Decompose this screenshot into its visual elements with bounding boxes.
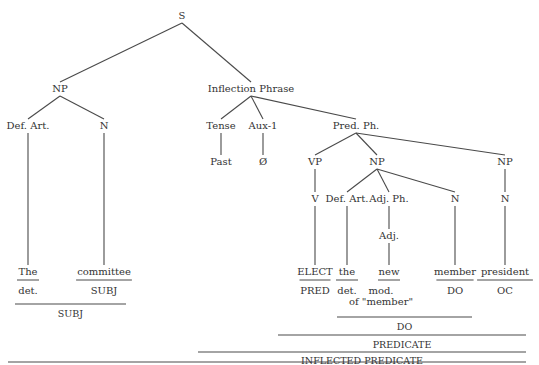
node-n1: N [100,120,109,132]
tree-edge [315,133,356,155]
node-np2: NP [369,156,384,168]
grammatical-role-label: DO [447,285,463,297]
node-tense: Tense [206,120,235,132]
grammatical-role-label: det. [18,285,38,297]
node-ip: Inflection Phrase [208,83,294,95]
tree-edge [60,23,182,82]
grammatical-role-label: OC [497,285,513,297]
tree-edge [356,133,505,155]
node-s: S [179,10,186,22]
node-v: V [311,193,318,205]
leaf-word: new [379,266,400,278]
leaf-word: member [434,266,476,278]
tree-edge [182,23,251,82]
node-n3: N [501,193,510,205]
bracket-label-predicate: PREDICATE [373,339,432,351]
node-np1: NP [52,83,67,95]
bracket-label-subj: SUBJ [58,308,83,320]
leaf-word: ELECT [297,266,333,278]
node-defart2: Def. Art. [326,193,369,205]
tree-edge [377,169,455,192]
tree-edge [251,96,356,119]
node-defart1: Def. Art. [7,120,50,132]
node-np3: NP [497,156,512,168]
tree-edge [347,169,377,192]
node-null: Ø [259,156,267,168]
node-adjph: Adj. Ph. [369,193,408,205]
grammatical-role-label: of "member" [349,296,413,308]
node-n2: N [451,193,460,205]
tree-edge [28,96,60,119]
leaf-word: president [481,266,529,278]
tree-edge [60,96,104,119]
node-adj: Adj. [379,230,399,242]
grammatical-role-label: PRED [300,285,330,297]
node-vp: VP [308,156,322,168]
grammatical-role-label: SUBJ [91,285,118,297]
leaf-word: the [339,266,355,278]
node-aux1: Aux-1 [249,120,278,132]
syntax-tree-diagram: SNPInflection PhraseDef. Art.NTenseAux-1… [0,0,539,365]
node-predph: Pred. Ph. [333,120,380,132]
leaf-word: The [18,266,37,278]
tree-edge [251,96,263,119]
tree-edge [221,96,251,119]
leaf-word: committee [77,266,131,278]
bracket-label-inflected-predicate: INFLECTED PREDICATE [301,355,423,365]
bracket-label-do: DO [397,321,412,333]
tree-edge [356,133,377,155]
node-past: Past [210,156,231,168]
